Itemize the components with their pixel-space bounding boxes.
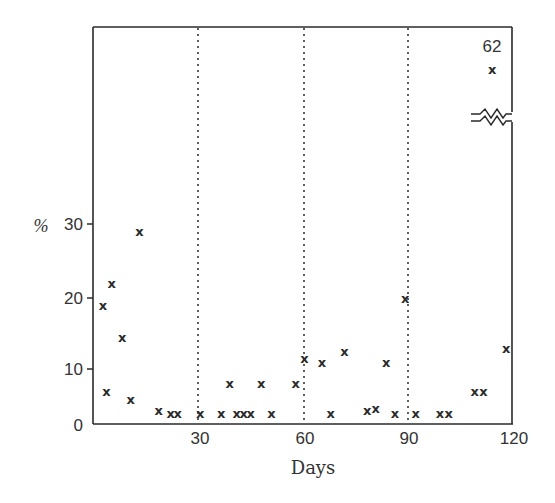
x-axis-label: Days xyxy=(291,457,336,478)
data-point-x-marker: x xyxy=(340,344,349,359)
data-point-x-marker: x xyxy=(436,406,445,421)
y-tick-label-10: 10 xyxy=(64,360,83,379)
data-point-x-marker: x xyxy=(471,384,480,399)
data-point-x-marker: x xyxy=(107,276,116,291)
data-point-x-marker: x xyxy=(246,406,255,421)
y-ticks xyxy=(87,224,93,369)
y-tick-label-20: 20 xyxy=(64,289,83,308)
data-point-x-marker: x xyxy=(196,406,205,421)
data-point-x-marker: x xyxy=(488,62,497,77)
x-tick-label-120: 120 xyxy=(500,429,528,448)
data-point-x-marker: x xyxy=(174,406,183,421)
data-point-x-marker: x xyxy=(118,330,127,345)
x-tick-label-60: 60 xyxy=(296,429,315,448)
data-point-x-marker: x xyxy=(217,406,226,421)
data-point-x-marker: x xyxy=(135,224,144,239)
scatter-chart: 30 20 10 0 % 30 60 90 120 Days 62 xxxxxx… xyxy=(0,0,555,503)
data-point-x-marker: x xyxy=(267,406,276,421)
data-point-x-marker: x xyxy=(479,384,488,399)
outlier-value-label: 62 xyxy=(483,37,502,56)
data-point-x-marker: x xyxy=(391,406,400,421)
y-tick-label-0: 0 xyxy=(74,416,83,435)
x-tick-label-90: 90 xyxy=(400,429,419,448)
data-markers: xxxxxxxxxxxxxxxxxxxxxxxxxxxxxxxxxx xyxy=(99,62,511,421)
data-point-x-marker: x xyxy=(99,298,108,313)
data-point-x-marker: x xyxy=(102,384,111,399)
data-point-x-marker: x xyxy=(127,392,136,407)
data-point-x-marker: x xyxy=(502,341,511,356)
data-point-x-marker: x xyxy=(226,376,235,391)
x-tick-label-30: 30 xyxy=(191,429,210,448)
y-tick-label-30: 30 xyxy=(64,215,83,234)
data-point-x-marker: x xyxy=(372,401,381,416)
data-point-x-marker: x xyxy=(292,376,301,391)
y-axis-label: % xyxy=(34,216,49,236)
data-point-x-marker: x xyxy=(412,406,421,421)
data-point-x-marker: x xyxy=(257,376,266,391)
data-point-x-marker: x xyxy=(300,351,309,366)
data-point-x-marker: x xyxy=(318,355,327,370)
axis-break-icon xyxy=(471,109,512,125)
data-point-x-marker: x xyxy=(326,406,335,421)
data-point-x-marker: x xyxy=(382,355,391,370)
data-point-x-marker: x xyxy=(445,406,454,421)
data-point-x-marker: x xyxy=(154,403,163,418)
data-point-x-marker: x xyxy=(401,291,410,306)
